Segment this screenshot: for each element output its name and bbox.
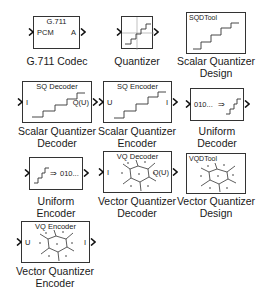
block-label: Quantizer (92, 55, 182, 67)
voronoi-icon (104, 152, 173, 194)
output-port-icon[interactable] (153, 28, 159, 36)
label-line-2: Decoder (12, 137, 102, 149)
block-label: Vector Quantizer Encoder (10, 265, 100, 289)
label-line-1: Scalar Quantizer (171, 55, 261, 67)
label-line-1: Uniform (11, 195, 101, 207)
sq-decoder-block[interactable]: SQ Decoder I Q(U) (22, 81, 92, 123)
sqdtool-block[interactable]: SQDTool (186, 12, 246, 54)
input-port-icon[interactable] (98, 168, 104, 176)
output-port-icon[interactable] (172, 98, 178, 106)
input-port-icon[interactable] (185, 100, 191, 108)
block-label: Scalar Quantizer Decoder (12, 125, 102, 149)
output-port-icon[interactable] (172, 168, 178, 176)
label-line-2: Design (171, 67, 261, 79)
block-label: Uniform Encoder (11, 195, 101, 219)
vq-decoder-block[interactable]: VQ Decoder I Q(U) (103, 151, 172, 193)
block-label: Vector Quantizer Design (171, 195, 261, 219)
output-port-icon[interactable] (83, 169, 89, 177)
input-port-icon[interactable] (17, 98, 23, 106)
input-port-icon[interactable] (24, 169, 30, 177)
label-line-2: Encoder (11, 207, 101, 219)
staircase-icon (104, 82, 173, 124)
voronoi-icon (22, 222, 91, 264)
block-label: Scalar Quantizer Design (171, 55, 261, 79)
vq-encoder-block[interactable]: VQ Encoder U I (21, 221, 90, 263)
block-label: Scalar Quantizer Encoder (92, 125, 182, 149)
block-label: Uniform Decoder (172, 125, 261, 149)
input-port-icon[interactable] (16, 238, 22, 246)
staircase-icon (23, 82, 93, 124)
label-line-1: Uniform (172, 125, 261, 137)
g711-codec-block[interactable]: G.711 PCM A (33, 16, 80, 49)
staircase-icon (191, 89, 245, 122)
block-label: Vector Quantizer Decoder (92, 195, 182, 219)
block-title: G.711 (34, 18, 79, 26)
label-line-1: Vector Quantizer (92, 195, 182, 207)
label-line-1: Vector Quantizer (10, 265, 100, 277)
staircase-icon (122, 17, 154, 50)
label-line-1: Scalar Quantizer (92, 125, 182, 137)
label-line-2: Decoder (92, 207, 182, 219)
label-line-2: Encoder (92, 137, 182, 149)
vqdtool-block[interactable]: VQDTool (186, 153, 246, 194)
block-label: G.711 Codec (12, 55, 102, 67)
input-port-icon[interactable] (116, 28, 122, 36)
input-port-icon[interactable] (28, 28, 34, 36)
output-port-icon[interactable] (80, 28, 86, 36)
label-line-2: Decoder (172, 137, 261, 149)
arrow-icon: ⇒ (50, 170, 57, 178)
label-line-2: Encoder (10, 277, 100, 289)
voronoi-icon (187, 154, 247, 195)
in-port-label: PCM (37, 29, 54, 37)
sq-encoder-block[interactable]: SQ Encoder U I (103, 81, 172, 123)
uniform-decoder-block[interactable]: 010... ⇒ (190, 88, 244, 121)
label-line-1: Vector Quantizer (171, 195, 261, 207)
staircase-icon (187, 13, 247, 55)
label-line-1: Scalar Quantizer (12, 125, 102, 137)
label-line-2: Design (171, 207, 261, 219)
bits-text: 010... (60, 170, 79, 178)
uniform-encoder-block[interactable]: ⇒ 010... (29, 157, 83, 190)
output-port-icon[interactable] (244, 100, 250, 108)
quantizer-block[interactable] (121, 16, 153, 49)
out-port-label: A (71, 29, 76, 37)
output-port-icon[interactable] (90, 238, 96, 246)
input-port-icon[interactable] (98, 98, 104, 106)
